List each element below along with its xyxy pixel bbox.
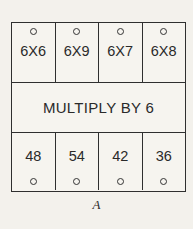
output-cell-4[interactable]: 36 [142, 133, 186, 190]
circle-connector-icon [160, 28, 167, 35]
input-expression: 6X7 [107, 44, 133, 59]
output-answer: 42 [112, 149, 128, 164]
output-cell-1[interactable]: 48 [12, 133, 55, 190]
output-row: 48 54 42 36 [12, 133, 185, 190]
input-cell-4[interactable]: 6X8 [142, 23, 186, 82]
circle-connector-icon [117, 178, 124, 185]
input-expression: 6X6 [20, 44, 46, 59]
output-answer: 54 [69, 149, 85, 164]
output-cell-3[interactable]: 42 [98, 133, 142, 190]
output-answer: 48 [25, 149, 41, 164]
input-cell-3[interactable]: 6X7 [98, 23, 142, 82]
circle-connector-icon [73, 28, 80, 35]
input-cell-2[interactable]: 6X9 [55, 23, 99, 82]
output-answer: 36 [156, 149, 172, 164]
input-cell-1[interactable]: 6X6 [12, 23, 55, 82]
multiplication-machine-box: 6X6 6X9 6X7 6X8 MULTIPLY BY 6 48 [11, 22, 186, 192]
circle-connector-icon [30, 178, 37, 185]
input-row: 6X6 6X9 6X7 6X8 [12, 23, 185, 82]
input-expression: 6X9 [64, 44, 90, 59]
rule-label: MULTIPLY BY 6 [12, 83, 185, 132]
circle-connector-icon [30, 28, 37, 35]
circle-connector-icon [160, 178, 167, 185]
function-machine-figure: 6X6 6X9 6X7 6X8 MULTIPLY BY 6 48 [0, 0, 193, 229]
figure-caption: A [0, 197, 193, 213]
circle-connector-icon [117, 28, 124, 35]
rule-row: MULTIPLY BY 6 [12, 82, 185, 133]
output-cell-2[interactable]: 54 [55, 133, 99, 190]
circle-connector-icon [73, 178, 80, 185]
input-expression: 6X8 [151, 44, 177, 59]
